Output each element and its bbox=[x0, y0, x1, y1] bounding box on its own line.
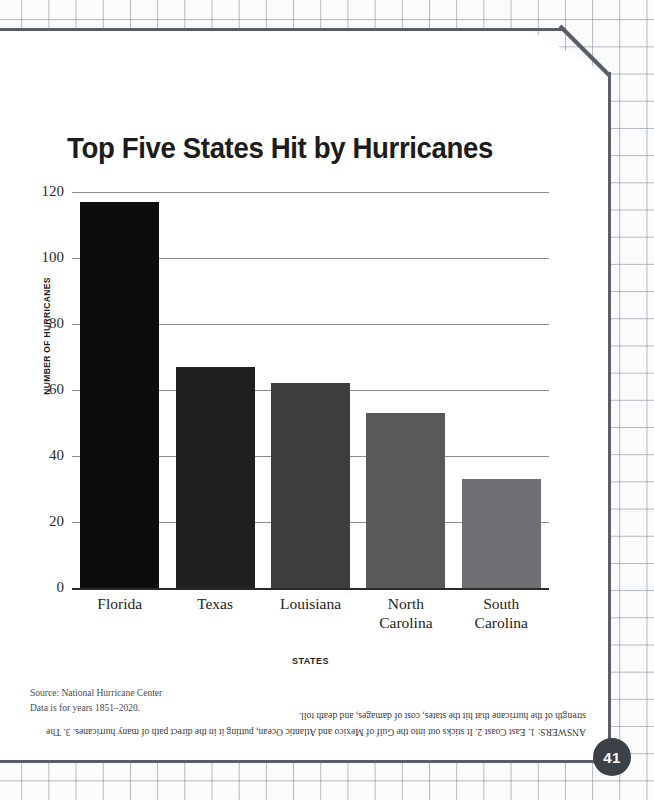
x-axis-title: STATES bbox=[72, 656, 549, 666]
chart-container: Top Five States Hit by Hurricanes NUMBER… bbox=[0, 31, 608, 760]
x-tick-line: Carolina bbox=[358, 613, 453, 632]
x-tick-south-carolina: SouthCarolina bbox=[454, 594, 549, 632]
y-tick-120: 120 bbox=[20, 183, 64, 200]
x-tick-louisiana: Louisiana bbox=[263, 594, 358, 613]
bar-texas bbox=[176, 367, 255, 588]
y-tick-40: 40 bbox=[20, 447, 64, 464]
y-tick-20: 20 bbox=[20, 513, 64, 530]
x-tick-north-carolina: NorthCarolina bbox=[358, 594, 453, 632]
bar-series bbox=[72, 192, 549, 588]
x-axis-tick-labels: FloridaTexasLouisianaNorthCarolinaSouthC… bbox=[72, 594, 549, 644]
x-tick-line: North bbox=[358, 594, 453, 613]
chart-title: Top Five States Hit by Hurricanes bbox=[22, 131, 537, 165]
y-tick-0: 0 bbox=[20, 579, 64, 596]
page-border-right bbox=[608, 72, 611, 762]
y-axis-tick-labels: 120100806040200 bbox=[14, 192, 64, 592]
x-tick-texas: Texas bbox=[167, 594, 262, 613]
page-border-bottom bbox=[0, 760, 611, 763]
x-tick-line: Carolina bbox=[454, 613, 549, 632]
workbook-page: Top Five States Hit by Hurricanes NUMBER… bbox=[0, 0, 654, 800]
page-number-badge: 41 bbox=[593, 738, 631, 776]
y-tick-100: 100 bbox=[20, 249, 64, 266]
y-tick-80: 80 bbox=[20, 315, 64, 332]
bar-florida bbox=[80, 202, 159, 588]
x-tick-line: Texas bbox=[167, 594, 262, 613]
y-tick-60: 60 bbox=[20, 381, 64, 398]
x-tick-line: Florida bbox=[72, 594, 167, 613]
answers-key: ANSWERS: 1. East Coast 2. It sticks out … bbox=[24, 708, 586, 740]
x-axis-line bbox=[72, 588, 549, 590]
x-tick-florida: Florida bbox=[72, 594, 167, 613]
x-tick-line: Louisiana bbox=[263, 594, 358, 613]
bar-north-carolina bbox=[366, 413, 445, 588]
source-line-1: Source: National Hurricane Center bbox=[30, 686, 162, 701]
plot-area bbox=[72, 192, 549, 588]
bar-south-carolina bbox=[462, 479, 541, 588]
x-tick-line: South bbox=[454, 594, 549, 613]
bar-louisiana bbox=[271, 383, 350, 588]
